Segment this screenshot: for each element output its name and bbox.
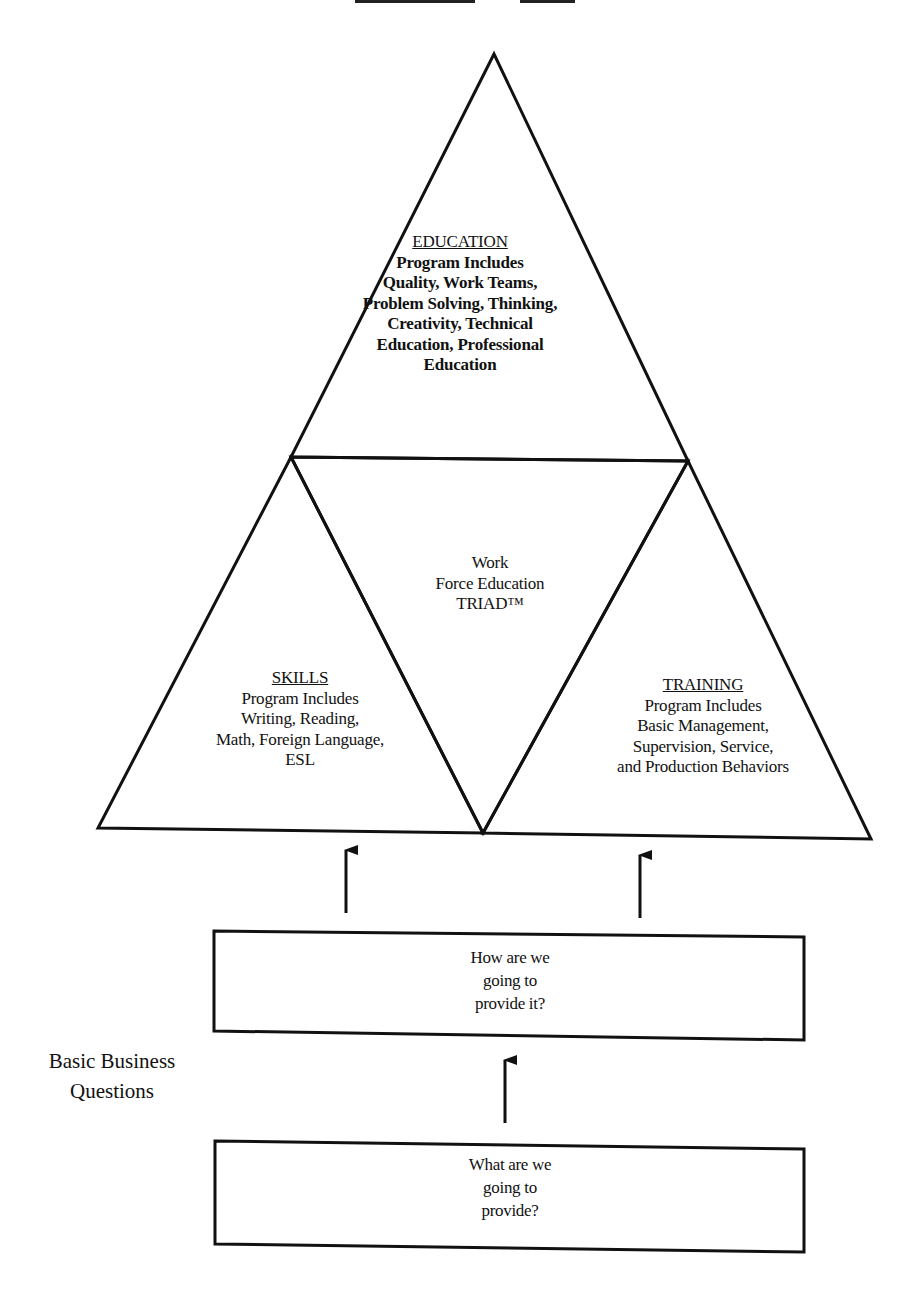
skills-heading: SKILLS bbox=[150, 668, 450, 689]
education-line: Creativity, Technical bbox=[290, 314, 630, 335]
box-what-text: What are we going to provide? bbox=[410, 1153, 610, 1222]
training-line: Supervision, Service, bbox=[548, 737, 858, 758]
center-triad-text: Work Force Education TRIAD™ bbox=[390, 553, 590, 615]
education-line: Program Includes bbox=[290, 253, 630, 274]
title-fragment bbox=[355, 0, 575, 3]
center-line: TRIAD™ bbox=[390, 594, 590, 615]
training-line: and Production Behaviors bbox=[548, 757, 858, 778]
skills-line: Math, Foreign Language, bbox=[150, 730, 450, 751]
box-how-line: provide it? bbox=[410, 992, 610, 1015]
box-what-line: provide? bbox=[410, 1199, 610, 1222]
center-line: Force Education bbox=[390, 574, 590, 595]
education-line: Education bbox=[290, 355, 630, 376]
education-line: Problem Solving, Thinking, bbox=[290, 294, 630, 315]
skills-text: SKILLS Program Includes Writing, Reading… bbox=[150, 668, 450, 771]
education-line: Education, Professional bbox=[290, 335, 630, 356]
training-text: TRAINING Program Includes Basic Manageme… bbox=[548, 675, 858, 778]
box-what-line: going to bbox=[410, 1176, 610, 1199]
box-what-line: What are we bbox=[410, 1153, 610, 1176]
education-text: EDUCATION Program Includes Quality, Work… bbox=[290, 232, 630, 376]
basic-business-questions-label: Basic Business Questions bbox=[22, 1046, 202, 1106]
training-triangle bbox=[483, 461, 871, 839]
side-label-line: Questions bbox=[22, 1076, 202, 1106]
box-how-line: How are we bbox=[410, 946, 610, 969]
skills-line: Program Includes bbox=[150, 689, 450, 710]
center-line: Work bbox=[390, 553, 590, 574]
skills-triangle bbox=[98, 457, 483, 833]
training-heading: TRAINING bbox=[548, 675, 858, 696]
skills-line: Writing, Reading, bbox=[150, 709, 450, 730]
training-line: Basic Management, bbox=[548, 716, 858, 737]
box-how-line: going to bbox=[410, 969, 610, 992]
skills-line: ESL bbox=[150, 750, 450, 771]
side-label-line: Basic Business bbox=[22, 1046, 202, 1076]
education-line: Quality, Work Teams, bbox=[290, 273, 630, 294]
box-how-text: How are we going to provide it? bbox=[410, 946, 610, 1015]
training-line: Program Includes bbox=[548, 696, 858, 717]
education-heading: EDUCATION bbox=[290, 232, 630, 253]
